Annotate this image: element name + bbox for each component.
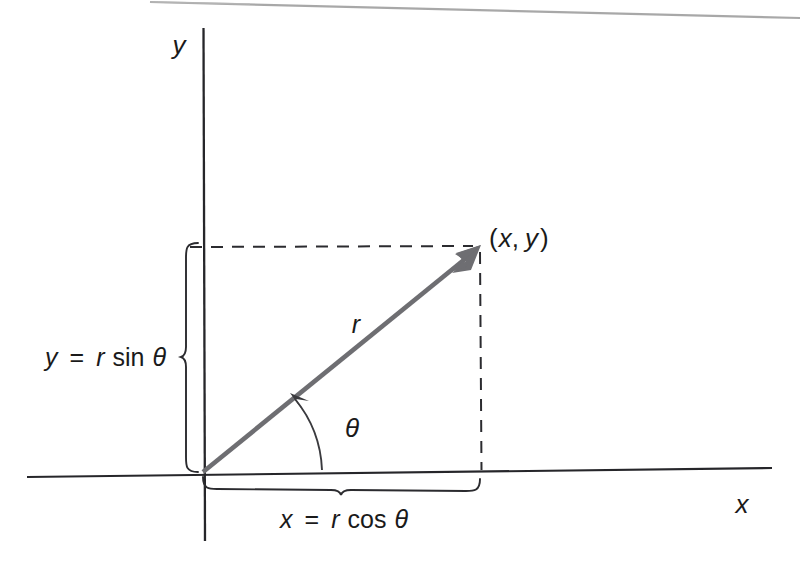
polar-coordinate-figure: y x r θ (x,y) y=rsi bbox=[0, 0, 800, 566]
y-equation-theta: θ bbox=[152, 343, 166, 371]
x-equation-label: x=rcosθ bbox=[279, 505, 408, 533]
point-label: (x,y) bbox=[489, 223, 549, 253]
y-equation-lhs: y bbox=[43, 343, 59, 371]
y-axis-label: y bbox=[171, 30, 188, 60]
x-equation-equals: = bbox=[305, 505, 320, 533]
point-label-close: ) bbox=[540, 223, 549, 253]
point-label-comma: , bbox=[512, 223, 519, 253]
y-equation-equals: = bbox=[70, 343, 85, 371]
figure-canvas: y x r θ (x,y) y=rsi bbox=[0, 0, 800, 566]
x-axis-line bbox=[27, 468, 772, 477]
x-equation-lhs: x bbox=[279, 505, 294, 533]
point-label-x: x bbox=[497, 223, 513, 253]
radius-label: r bbox=[352, 310, 362, 338]
vertical-dashed-line bbox=[480, 252, 482, 470]
radius-ray-line bbox=[203, 255, 470, 472]
scan-edge-artifact bbox=[150, 2, 800, 18]
x-axis-label: x bbox=[734, 489, 750, 519]
y-equation-function: sin bbox=[112, 343, 144, 371]
y-axis-line bbox=[204, 28, 206, 541]
y-equation-r: r bbox=[96, 343, 106, 371]
y-equation-label: y=rsinθ bbox=[43, 343, 166, 371]
x-equation-theta: θ bbox=[394, 505, 408, 533]
point-label-y: y bbox=[523, 223, 540, 253]
coordinate-axes bbox=[27, 28, 772, 541]
x-equation-r: r bbox=[331, 505, 341, 533]
angle-arc-group bbox=[290, 393, 322, 470]
angle-arc bbox=[295, 399, 322, 470]
radius-ray-group bbox=[203, 245, 481, 472]
x-equation-function: cos bbox=[347, 505, 386, 533]
vertical-brace bbox=[181, 243, 198, 472]
horizontal-brace bbox=[203, 477, 480, 495]
angle-label: θ bbox=[345, 413, 359, 443]
horizontal-dashed-line bbox=[190, 246, 473, 247]
point-label-open: ( bbox=[489, 223, 498, 253]
